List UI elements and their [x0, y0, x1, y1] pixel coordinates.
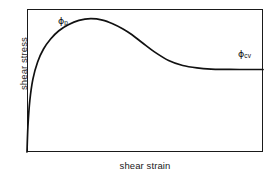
annotation-peak-stress: ϕp [58, 16, 68, 27]
x-axis-title: shear strain [27, 160, 263, 171]
phi-subscript-critical: cv [244, 52, 251, 59]
shear-stress-strain-figure: ϕp ϕcv shear stress shear strain [0, 0, 277, 180]
phi-subscript-peak: p [64, 19, 68, 26]
shear-stress-strain-curve [27, 9, 263, 152]
y-axis-title: shear stress [18, 19, 29, 109]
curve-path [27, 19, 263, 152]
annotation-critical-stress: ϕcv [238, 49, 251, 60]
